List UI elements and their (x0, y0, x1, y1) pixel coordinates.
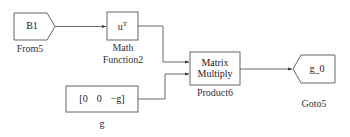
diagram-graphics (0, 0, 350, 137)
goto-tag: g_0 (300, 63, 334, 74)
product-text: Matrix Multiply (190, 57, 240, 79)
product-text-line1: Matrix (190, 57, 240, 68)
signal-line-constant-to-product[interactable] (138, 74, 189, 99)
constant-value-part-3: −g] (111, 93, 125, 104)
math-expression: uT (107, 19, 138, 32)
math-label-line2: Function2 (92, 54, 154, 66)
from-tag: B1 (14, 20, 50, 31)
constant-block-label: g (82, 118, 122, 130)
constant-value-part-2: 0 (97, 93, 102, 104)
constant-value-part-1: [0 (79, 93, 87, 104)
constant-value: [0 0 −g] (66, 93, 138, 104)
math-label-line1: Math (92, 42, 154, 54)
math-expression-sup: T (123, 20, 127, 28)
product-text-line2: Multiply (190, 68, 240, 79)
simulink-canvas: B1 From5 uT Math Function2 [0 0 −g] g Ma… (0, 0, 350, 137)
goto-block-label: Goto5 (290, 98, 338, 110)
product-block-label: Product6 (185, 87, 245, 99)
from-block-label: From5 (4, 43, 56, 55)
math-block-label: Math Function2 (92, 42, 154, 66)
